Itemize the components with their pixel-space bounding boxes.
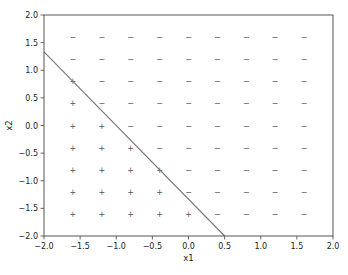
minus-marker: − xyxy=(98,99,105,108)
minus-marker: − xyxy=(127,99,134,108)
minus-marker: − xyxy=(185,55,192,64)
plus-marker: + xyxy=(70,166,77,175)
minus-marker: − xyxy=(243,33,250,42)
minus-marker: − xyxy=(243,166,250,175)
minus-marker: − xyxy=(214,55,221,64)
minus-marker: − xyxy=(127,33,134,42)
minus-marker: − xyxy=(272,77,279,86)
minus-marker: − xyxy=(214,210,221,219)
x-tick-label: 2.0 xyxy=(327,242,340,251)
minus-marker: − xyxy=(243,122,250,131)
minus-marker: − xyxy=(127,122,134,131)
plus-marker: + xyxy=(70,144,77,153)
minus-marker: − xyxy=(70,33,77,42)
x-tick-label: 0.5 xyxy=(218,242,231,251)
plus-marker: + xyxy=(98,210,105,219)
data-markers: −−−−−−−−−−−−−−−−−−+−−−−−−−−+−−−−−−−−++−−… xyxy=(70,33,308,219)
minus-marker: − xyxy=(70,55,77,64)
minus-marker: − xyxy=(272,99,279,108)
minus-marker: − xyxy=(98,55,105,64)
minus-marker: − xyxy=(98,33,105,42)
y-tick-label: −1.0 xyxy=(19,177,38,186)
plus-marker: + xyxy=(70,122,77,131)
plus-marker: + xyxy=(127,144,134,153)
plus-marker: + xyxy=(98,144,105,153)
minus-marker: − xyxy=(156,77,163,86)
minus-marker: − xyxy=(301,33,308,42)
minus-marker: − xyxy=(243,144,250,153)
minus-marker: − xyxy=(301,55,308,64)
minus-marker: − xyxy=(243,99,250,108)
y-tick-label: −0.5 xyxy=(19,149,38,158)
minus-marker: − xyxy=(156,55,163,64)
x-axis-ticks: −2.0−1.5−1.0−0.50.00.51.01.52.0 xyxy=(34,236,339,251)
minus-marker: − xyxy=(156,33,163,42)
plus-marker: + xyxy=(127,166,134,175)
minus-marker: − xyxy=(156,122,163,131)
minus-marker: − xyxy=(301,210,308,219)
minus-marker: − xyxy=(214,99,221,108)
y-tick-label: −1.5 xyxy=(19,204,38,213)
x-axis-label: x1 xyxy=(183,253,193,263)
minus-marker: − xyxy=(301,99,308,108)
minus-marker: − xyxy=(301,77,308,86)
minus-marker: − xyxy=(185,144,192,153)
minus-marker: − xyxy=(185,99,192,108)
x-tick-label: −1.0 xyxy=(107,242,126,251)
minus-marker: − xyxy=(185,77,192,86)
y-tick-label: 2.0 xyxy=(25,11,38,20)
minus-marker: − xyxy=(272,33,279,42)
minus-marker: − xyxy=(301,122,308,131)
minus-marker: − xyxy=(301,166,308,175)
plus-marker: + xyxy=(70,188,77,197)
y-tick-label: 0.5 xyxy=(25,94,38,103)
minus-marker: − xyxy=(301,144,308,153)
minus-marker: − xyxy=(156,99,163,108)
plus-marker: + xyxy=(127,210,134,219)
minus-marker: − xyxy=(127,77,134,86)
plus-marker: + xyxy=(98,122,105,131)
plus-marker: + xyxy=(127,188,134,197)
minus-marker: − xyxy=(98,77,105,86)
minus-marker: − xyxy=(272,122,279,131)
y-tick-label: 1.5 xyxy=(25,39,38,48)
y-axis-ticks: −2.0−1.5−1.0−0.50.00.51.01.52.0 xyxy=(19,11,44,241)
minus-marker: − xyxy=(243,77,250,86)
minus-marker: − xyxy=(272,188,279,197)
minus-marker: − xyxy=(214,77,221,86)
plus-marker: + xyxy=(98,188,105,197)
minus-marker: − xyxy=(185,188,192,197)
plus-marker: + xyxy=(156,188,163,197)
minus-marker: − xyxy=(214,33,221,42)
minus-marker: − xyxy=(185,122,192,131)
minus-marker: − xyxy=(185,166,192,175)
minus-marker: − xyxy=(214,188,221,197)
minus-marker: − xyxy=(214,166,221,175)
y-tick-label: −2.0 xyxy=(19,232,38,241)
plus-marker: + xyxy=(156,210,163,219)
minus-marker: − xyxy=(301,188,308,197)
minus-marker: − xyxy=(243,55,250,64)
x-tick-label: 0.0 xyxy=(182,242,195,251)
scatter-chart: −−−−−−−−−−−−−−−−−−+−−−−−−−−+−−−−−−−−++−−… xyxy=(0,0,348,275)
minus-marker: − xyxy=(127,55,134,64)
minus-marker: − xyxy=(243,210,250,219)
minus-marker: − xyxy=(272,144,279,153)
minus-marker: − xyxy=(243,188,250,197)
x-tick-label: −1.5 xyxy=(70,242,89,251)
x-tick-label: −0.5 xyxy=(143,242,162,251)
y-tick-label: 1.0 xyxy=(25,66,38,75)
minus-marker: − xyxy=(272,55,279,64)
y-tick-label: 0.0 xyxy=(25,122,38,131)
x-tick-label: 1.5 xyxy=(291,242,304,251)
minus-marker: − xyxy=(272,166,279,175)
y-axis-label: x2 xyxy=(4,120,14,130)
plus-marker: + xyxy=(98,166,105,175)
minus-marker: − xyxy=(185,33,192,42)
plus-marker: + xyxy=(70,210,77,219)
x-tick-label: −2.0 xyxy=(34,242,53,251)
x-tick-label: 1.0 xyxy=(254,242,267,251)
minus-marker: − xyxy=(214,122,221,131)
minus-marker: − xyxy=(156,144,163,153)
plus-marker: + xyxy=(70,99,77,108)
